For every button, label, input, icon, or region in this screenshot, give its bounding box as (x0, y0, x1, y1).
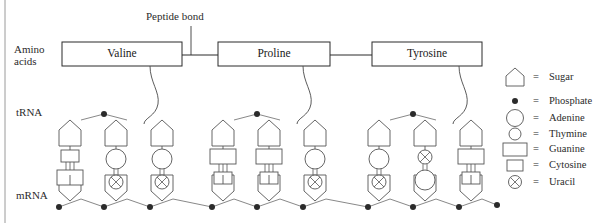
thymine-small-circle-icon (509, 128, 521, 140)
legend-label-thymine: Thymine (549, 128, 587, 139)
legend-label-uracil: Uracil (549, 176, 575, 187)
peptide-bond-label-text: Peptide bond (146, 10, 204, 22)
legend-equals-cytosine: = (533, 159, 539, 170)
sugar-pentagon-icon (506, 68, 524, 86)
trna-stem-valine (144, 66, 158, 124)
legend-label-guanine: Guanine (549, 143, 585, 154)
base-pair-column-7 (369, 146, 389, 189)
base-cytosine-icon (61, 150, 79, 162)
base-pair-column-5 (256, 146, 282, 184)
legend-equals-uracil: = (533, 176, 539, 187)
trna-stem-tyrosine (453, 66, 467, 124)
base-guanine-icon (210, 149, 236, 164)
trna-phosphates (101, 111, 416, 117)
base-pair-column-1 (57, 146, 83, 185)
uracil-crossed-circle-icon (509, 176, 522, 189)
trna-sugars (59, 120, 482, 146)
base-pair-column-6 (305, 146, 325, 189)
guanine-large-rect-icon (503, 143, 527, 156)
base-pair-column-3 (152, 146, 172, 189)
row-label-amino-acids-line1: Amino (14, 43, 45, 55)
trna-stem-proline (297, 66, 311, 124)
amino-acid-label-tyrosine: Tyrosine (372, 47, 482, 59)
legend-equals-sugar: = (533, 71, 539, 82)
adenine-large-circle-icon (507, 110, 524, 127)
translation-diagram-svg (0, 0, 613, 223)
phosphate-dot-icon (512, 98, 518, 104)
legend-label-sugar: Sugar (549, 71, 574, 82)
amino-acid-label-valine: Valine (62, 47, 182, 59)
amino-acid-label-proline: Proline (218, 47, 330, 59)
base-pair-column-8 (415, 146, 435, 190)
base-adenine-icon (106, 149, 126, 169)
base-guanine-icon (256, 149, 282, 164)
legend-equals-phosphate: = (533, 95, 539, 106)
legend-label-cytosine: Cytosine (549, 159, 586, 170)
legend-equals-guanine: = (533, 143, 539, 154)
legend-label-adenine: Adenine (549, 112, 585, 123)
base-pair-column-9 (458, 146, 484, 184)
legend-label-phosphate: Phosphate (549, 95, 592, 106)
legend-equals-adenine: = (533, 112, 539, 123)
base-adenine-icon (305, 149, 325, 169)
base-adenine-icon (415, 170, 435, 190)
base-pair-column-4 (210, 146, 236, 184)
base-guanine-icon (458, 149, 484, 164)
mrna-phosphates (56, 202, 500, 210)
base-pair-column-2 (106, 146, 126, 189)
row-label-amino-acids-line2: acids (14, 55, 37, 67)
base-adenine-icon (152, 149, 172, 169)
legend-equals-thymine: = (533, 128, 539, 139)
cytosine-small-square-icon (507, 160, 523, 171)
base-adenine-icon (369, 149, 389, 169)
row-label-trna: tRNA (16, 106, 42, 118)
row-label-mrna: mRNA (16, 189, 48, 201)
mrna-backbone (59, 199, 497, 207)
diagram-canvas: Peptide bond Amino acids tRNA mRNA Valin… (0, 0, 613, 223)
legend-icons (503, 68, 527, 189)
